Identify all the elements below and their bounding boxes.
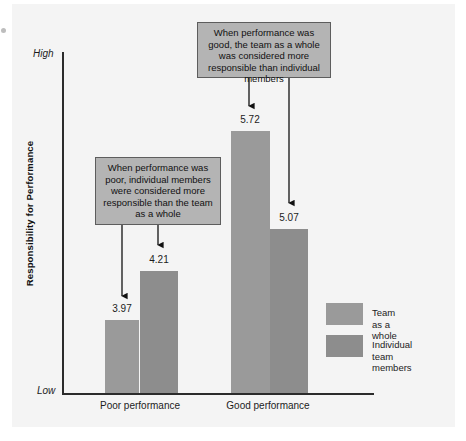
callout-poor-performance: When performance was poor, individual me…: [95, 157, 221, 225]
bar-good-team: [231, 131, 270, 393]
legend-label-individual: Individual team members: [372, 335, 412, 374]
y-axis-line: [62, 52, 64, 395]
bar-poor-team: [105, 320, 139, 393]
y-axis-title: Responsibility for Performance: [24, 119, 35, 309]
y-axis-high-label: High: [33, 48, 54, 59]
x-tick-label-good: Good performance: [198, 400, 338, 411]
margin-marker-icon: [1, 28, 6, 33]
bar-value-good-individual: 5.07: [259, 212, 319, 223]
bar-value-good-team: 5.72: [220, 114, 280, 125]
bar-poor-individual: [140, 271, 178, 393]
legend-item-individual: Individual team members: [326, 335, 412, 374]
callout-good-performance: When performance was good, the team as a…: [197, 22, 331, 78]
legend-swatch-individual: [326, 335, 363, 357]
x-axis-line: [62, 393, 374, 395]
x-tick-label-poor: Poor performance: [70, 400, 210, 411]
bar-good-individual: [270, 229, 308, 393]
legend-swatch-team: [326, 303, 363, 325]
y-axis-low-label: Low: [37, 385, 55, 396]
figure-root: High Low Responsibility for Performance …: [0, 0, 466, 441]
bar-value-poor-individual: 4.21: [129, 254, 189, 265]
